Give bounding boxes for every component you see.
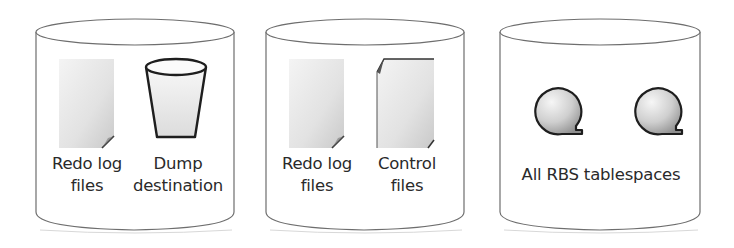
redo-log-files-label: Redo log files bbox=[268, 153, 366, 197]
label-line: destination bbox=[128, 175, 228, 197]
all-rbs-tablespaces-label: All RBS tablespaces bbox=[506, 164, 696, 186]
disk-3: All RBS tablespaces bbox=[498, 0, 704, 248]
label-line: All RBS tablespaces bbox=[506, 164, 696, 186]
dump-destination-label: Dump destination bbox=[128, 153, 228, 197]
document-icon bbox=[288, 58, 346, 150]
diagram-canvas: Redo log files Dump destination bbox=[0, 0, 734, 248]
disk-1: Redo log files Dump destination bbox=[34, 0, 238, 248]
label-line: files bbox=[38, 175, 136, 197]
document-icon bbox=[58, 58, 116, 150]
label-line: files bbox=[268, 175, 366, 197]
control-files-label: Control files bbox=[362, 153, 452, 197]
label-line: Control bbox=[362, 153, 452, 175]
label-line: files bbox=[362, 175, 452, 197]
document-icon bbox=[376, 58, 436, 150]
disk-2: Redo log files Control files bbox=[264, 0, 468, 248]
label-line: Dump bbox=[128, 153, 228, 175]
label-line: Redo log bbox=[268, 153, 366, 175]
rollback-segment-icon bbox=[632, 86, 688, 140]
redo-log-files-label: Redo log files bbox=[38, 153, 136, 197]
label-line: Redo log bbox=[38, 153, 136, 175]
rollback-segment-icon bbox=[532, 86, 588, 140]
bucket-icon bbox=[143, 57, 209, 141]
